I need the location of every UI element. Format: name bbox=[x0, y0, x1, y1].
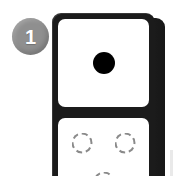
edge-artifact bbox=[170, 150, 173, 176]
pip-top-right-ghost bbox=[115, 132, 136, 153]
step-badge: 1 bbox=[12, 18, 49, 55]
pip-top-left-ghost bbox=[71, 132, 92, 153]
domino-tile[interactable] bbox=[52, 13, 158, 176]
pip-field-top bbox=[58, 19, 149, 107]
pip-field-bottom bbox=[58, 118, 149, 176]
step-badge-label: 1 bbox=[25, 26, 36, 46]
domino-half-bottom bbox=[58, 118, 149, 176]
pip-bottom-center-ghost bbox=[93, 172, 114, 176]
domino-half-top bbox=[58, 19, 149, 107]
pip-center-filled bbox=[93, 52, 115, 74]
domino-body bbox=[52, 13, 155, 176]
